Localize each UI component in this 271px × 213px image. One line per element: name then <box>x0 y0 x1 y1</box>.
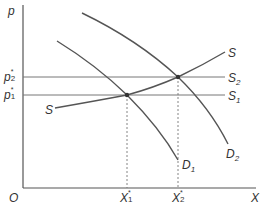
supply-line-label-s1-base: S <box>228 89 236 103</box>
demand-curve-d2 <box>82 13 228 144</box>
supply-curve-label-left-text: S <box>45 103 53 117</box>
price-label-p1-sub: 1 <box>11 93 15 101</box>
supply-curve-label-left: S <box>45 104 53 116</box>
supply-line-label-s2-sub: 2 <box>236 78 240 87</box>
price-label-p2-scripts: *2 <box>11 71 16 81</box>
origin-label: O <box>9 192 18 204</box>
x-axis-label: X <box>251 192 259 204</box>
price-label-p2-sub: 2 <box>11 75 15 83</box>
quantity-label-x2-sub: 2 <box>180 196 184 204</box>
quantity-label-x2: X*2 <box>172 192 185 204</box>
demand-curve-label-d2: D2 <box>226 148 239 160</box>
origin-label-text: O <box>9 191 18 205</box>
quantity-label-x1-base: X <box>120 191 128 205</box>
y-axis-label: p <box>8 5 15 17</box>
supply-line-label-s1: S1 <box>228 90 240 102</box>
equilibrium-point-1 <box>125 93 129 97</box>
demand-curve-label-d2-sub: 2 <box>235 154 239 163</box>
price-label-p2: p*2 <box>4 71 16 83</box>
demand-curve-d1 <box>57 41 178 160</box>
demand-curve-label-d2-base: D <box>226 147 235 161</box>
quantity-label-x2-base: X <box>172 191 180 205</box>
supply-line-label-s1-sub: 1 <box>236 96 240 105</box>
supply-curve-label-right-text: S <box>228 46 236 60</box>
x-axis-label-text: X <box>251 191 259 205</box>
equilibrium-point-2 <box>176 75 180 79</box>
price-label-p1-base: p <box>4 88 11 102</box>
demand-curve-label-d1: D1 <box>182 159 195 171</box>
demand-curve-label-d1-sub: 1 <box>191 165 195 174</box>
quantity-label-x2-scripts: *2 <box>180 192 185 202</box>
supply-demand-diagram <box>0 0 271 213</box>
y-axis-label-text: p <box>8 4 15 18</box>
price-label-p1-scripts: *1 <box>11 89 16 99</box>
price-label-p2-base: p <box>4 70 11 84</box>
supply-line-label-s2-base: S <box>228 71 236 85</box>
price-label-p1: p*1 <box>4 89 16 101</box>
supply-line-label-s2: S2 <box>228 72 240 84</box>
quantity-label-x1-scripts: *1 <box>128 192 133 202</box>
quantity-label-x1: X*1 <box>120 192 133 204</box>
supply-curve-label-right: S <box>228 47 236 59</box>
demand-curve-label-d1-base: D <box>182 158 191 172</box>
quantity-label-x1-sub: 1 <box>128 196 132 204</box>
